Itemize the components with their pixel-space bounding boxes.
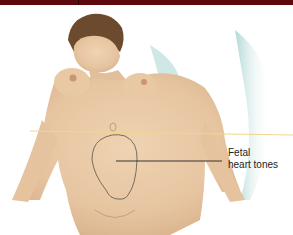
nipple-left xyxy=(70,75,77,82)
shadow-right xyxy=(235,30,271,200)
callout-line-2: heart tones xyxy=(228,159,278,171)
callout-line-1: Fetal xyxy=(228,147,278,159)
callout-label-fetal-heart-tones: Fetal heart tones xyxy=(228,147,278,171)
nipple-right xyxy=(141,79,147,85)
anatomical-illustration xyxy=(0,0,293,235)
